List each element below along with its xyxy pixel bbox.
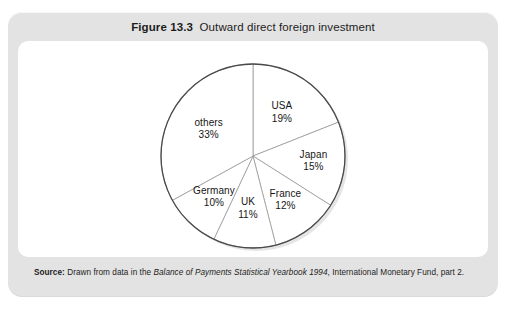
pie-label-value: 11% — [208, 209, 288, 222]
pie-label-name: Germany — [174, 185, 254, 198]
pie-label-value: 15% — [273, 161, 353, 174]
figure-title-text: Outward direct foreign investment — [200, 21, 375, 33]
pie-label-usa: USA19% — [242, 100, 322, 125]
pie-label-name: others — [169, 117, 249, 130]
pie-label-value: 33% — [169, 129, 249, 142]
figure-title: Figure 13.3 Outward direct foreign inves… — [8, 12, 498, 42]
pie-label-germany: Germany10% — [174, 185, 254, 210]
source-citation: Source: Drawn from data in the Balance o… — [34, 268, 484, 277]
figure-number: Figure 13.3 — [131, 21, 193, 33]
pie-label-others: others33% — [169, 117, 249, 142]
pie-label-name: USA — [242, 100, 322, 113]
source-text-before: Drawn from data in the — [67, 268, 153, 277]
source-strip: Source: Drawn from data in the Balance o… — [8, 257, 498, 297]
pie-label-value: 10% — [174, 197, 254, 210]
source-label: Source: — [34, 268, 65, 277]
pie-label-name: Japan — [273, 149, 353, 162]
source-text-after: , International Monetary Fund, part 2. — [328, 268, 465, 277]
pie-label-japan: Japan15% — [273, 149, 353, 174]
source-publication-title: Balance of Payments Statistical Yearbook… — [153, 268, 327, 277]
chart-panel — [18, 41, 488, 257]
pie-label-value: 19% — [242, 113, 322, 126]
figure-frame: Figure 13.3 Outward direct foreign inves… — [8, 12, 498, 297]
